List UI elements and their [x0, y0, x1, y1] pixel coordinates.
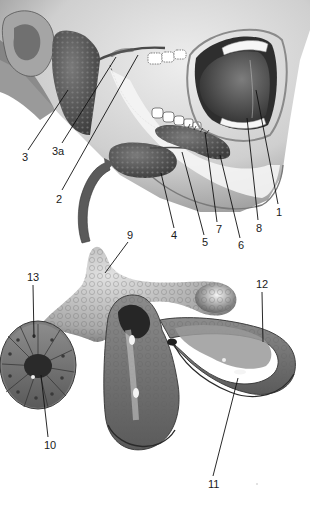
label-10: 10: [44, 439, 56, 451]
label-3: 3: [22, 151, 28, 163]
label-3a: 3a: [52, 145, 65, 157]
label-9: 9: [127, 229, 133, 241]
salivary-gland-diagram: 1 2 3 3a 4 5 6 7 8 9 10 11 12 13: [0, 0, 310, 522]
label-6: 6: [238, 239, 244, 251]
label-7: 7: [216, 223, 222, 235]
magnification-arrow: [78, 162, 110, 243]
label-8: 8: [256, 222, 262, 234]
lumen: [24, 354, 52, 378]
acinus-lobe-right: [160, 318, 295, 397]
acinus-illustration: [0, 247, 295, 450]
acinus-cross-section: [0, 321, 76, 409]
label-12: 12: [256, 278, 268, 290]
label-11: 11: [208, 478, 219, 490]
label-5: 5: [202, 236, 208, 248]
acinus-lobe-middle: [104, 295, 179, 450]
label-4: 4: [171, 229, 177, 241]
label-13: 13: [27, 271, 39, 283]
leader-11: [213, 378, 238, 476]
leader-9: [105, 242, 128, 273]
label-1: 1: [276, 206, 282, 218]
label-2: 2: [56, 193, 62, 205]
